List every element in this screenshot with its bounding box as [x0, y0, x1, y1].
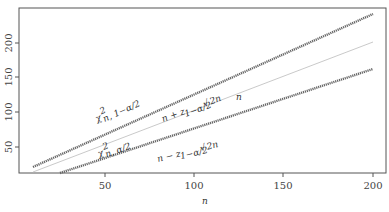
x-tick-100: 100	[184, 180, 203, 191]
y-tick-150: 150	[3, 67, 14, 86]
n-line-label: n	[236, 92, 242, 102]
x-tick-200: 200	[363, 180, 382, 191]
x-tick-50: 50	[99, 180, 112, 191]
y-tick-100: 100	[3, 102, 14, 121]
y-tick-50: 50	[3, 141, 14, 154]
x-axis-label: n	[202, 196, 208, 206]
svg-text:n − z: n − z	[156, 148, 182, 164]
y-axis: 50 100 150 200	[3, 33, 19, 153]
chart: 50 100 150 200 50 100 150 200 n χ 2 n, 1…	[0, 0, 389, 212]
svg-text:2n: 2n	[205, 139, 220, 152]
x-axis: 50 100 150 200 n	[99, 173, 383, 206]
normal-lower-label: n − z 1−α/2 √ 2n	[156, 139, 220, 167]
y-tick-200: 200	[3, 33, 14, 52]
x-tick-150: 150	[273, 180, 292, 191]
